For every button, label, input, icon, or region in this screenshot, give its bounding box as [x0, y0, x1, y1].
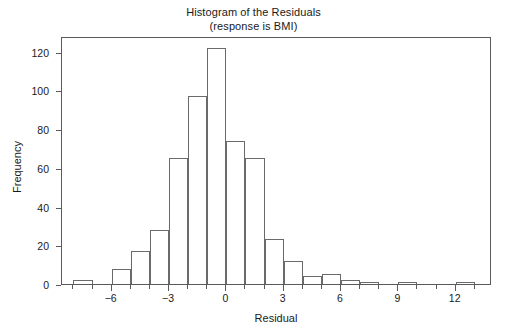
- chart-title: Histogram of the Residuals: [0, 5, 507, 19]
- x-axis-tick-label: 3: [263, 292, 303, 304]
- histogram-bar: [284, 261, 303, 284]
- x-axis-minor-tick: [244, 285, 245, 289]
- x-axis-tick: [340, 285, 341, 291]
- x-axis-tick-label: 9: [377, 292, 417, 304]
- histogram-bar: [303, 276, 322, 284]
- x-axis-minor-tick: [206, 285, 207, 289]
- histogram-bar: [341, 280, 360, 284]
- x-axis-tick-label: −3: [148, 292, 188, 304]
- y-axis-tick-label: 60: [9, 163, 49, 175]
- histogram-bar: [226, 141, 245, 284]
- y-axis-tick-label: 20: [9, 240, 49, 252]
- y-axis-tick: [56, 285, 61, 286]
- x-axis-minor-tick: [130, 285, 131, 289]
- y-axis-tick: [56, 130, 61, 131]
- x-axis-minor-tick: [416, 285, 417, 289]
- x-axis-label: Residual: [61, 312, 491, 324]
- histogram-bar: [360, 282, 379, 284]
- plot-frame: [61, 37, 491, 285]
- y-axis-tick: [56, 208, 61, 209]
- histogram-bar: [265, 239, 284, 284]
- histogram-bar: [150, 230, 169, 284]
- chart-title-block: Histogram of the Residuals (response is …: [0, 5, 507, 33]
- histogram-figure: Histogram of the Residuals (response is …: [0, 0, 507, 335]
- x-axis-minor-tick: [187, 285, 188, 289]
- x-axis-tick-label: 0: [205, 292, 245, 304]
- x-axis-tick: [111, 285, 112, 291]
- x-axis-minor-tick: [149, 285, 150, 289]
- y-axis-tick: [56, 91, 61, 92]
- y-axis-tick-label: 80: [9, 124, 49, 136]
- x-axis-minor-tick: [264, 285, 265, 289]
- x-axis-tick: [397, 285, 398, 291]
- plot-area: [62, 38, 490, 284]
- y-axis-tick-label: 100: [9, 85, 49, 97]
- y-axis-tick: [56, 53, 61, 54]
- x-axis-minor-tick: [359, 285, 360, 289]
- histogram-bar: [322, 274, 341, 284]
- x-axis-tick-label: −6: [91, 292, 131, 304]
- x-axis-minor-tick: [436, 285, 437, 289]
- x-axis-minor-tick: [378, 285, 379, 289]
- histogram-bar: [112, 269, 131, 285]
- histogram-bar: [398, 282, 417, 284]
- y-axis-tick-label: 0: [9, 279, 49, 291]
- x-axis-minor-tick: [302, 285, 303, 289]
- histogram-bar: [169, 158, 188, 284]
- x-axis-minor-tick: [72, 285, 73, 289]
- y-axis-tick-label: 120: [9, 47, 49, 59]
- y-axis-tick: [56, 169, 61, 170]
- x-axis-tick: [168, 285, 169, 291]
- y-axis-tick-label: 40: [9, 202, 49, 214]
- histogram-bar: [73, 280, 92, 284]
- histogram-bar: [245, 158, 264, 284]
- histogram-bar: [131, 251, 150, 284]
- chart-subtitle: (response is BMI): [0, 19, 507, 33]
- histogram-bar: [207, 48, 226, 284]
- x-axis-minor-tick: [474, 285, 475, 289]
- histogram-bar: [188, 96, 207, 284]
- y-axis-tick: [56, 246, 61, 247]
- x-axis-tick: [225, 285, 226, 291]
- x-axis-tick: [455, 285, 456, 291]
- x-axis-tick: [283, 285, 284, 291]
- x-axis-minor-tick: [92, 285, 93, 289]
- histogram-bar: [456, 282, 475, 284]
- x-axis-tick-label: 6: [320, 292, 360, 304]
- x-axis-tick-label: 12: [435, 292, 475, 304]
- x-axis-minor-tick: [321, 285, 322, 289]
